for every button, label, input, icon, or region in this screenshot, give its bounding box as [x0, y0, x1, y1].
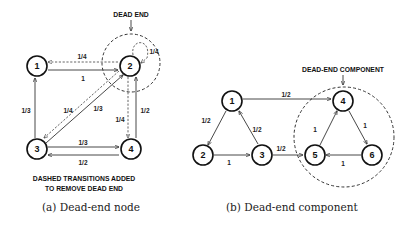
svg-text:5: 5	[312, 150, 317, 160]
weight-b-1-2: 1/2	[201, 117, 210, 124]
node-b-6: 6	[362, 145, 382, 165]
weight-b-2-3: 1	[227, 159, 231, 166]
figure: DEAD END 1/4 1 1/4 1/3 1/4 1/3 1/4 1/2 1…	[0, 0, 409, 227]
node-a-1: 1	[27, 56, 47, 76]
node-b-1: 1	[222, 91, 242, 111]
svg-text:1: 1	[34, 61, 39, 71]
svg-text:3: 3	[34, 144, 39, 154]
edge-b-1-2	[208, 111, 226, 145]
node-b-5: 5	[305, 145, 325, 165]
node-b-2: 2	[193, 145, 213, 165]
weight-a-3-1: 1/3	[21, 107, 30, 114]
edge-a-3-2	[46, 75, 123, 143]
svg-text:4: 4	[128, 144, 133, 154]
dashed-transitions-note-line2: TO REMOVE DEAD END	[45, 185, 123, 192]
dead-end-label: DEAD END	[113, 11, 149, 18]
weight-b-5-4: 1	[313, 126, 317, 133]
weight-a-3-4: 1/3	[78, 139, 87, 146]
edge-b-5-4	[320, 111, 337, 145]
weight-a-4-3: 1/2	[78, 159, 87, 166]
weight-b-4-6: 1	[363, 122, 367, 129]
dead-end-component-label: DEAD-END COMPONENT	[302, 66, 385, 73]
weight-b-1-4: 1/2	[281, 91, 290, 98]
weight-b-3-1: 1/2	[252, 126, 261, 133]
weight-a-1-2: 1	[81, 75, 85, 82]
panel-b: DEAD-END COMPONENT 1/2 1/2 1/2 1 1/2 1 1…	[193, 66, 394, 213]
node-b-4: 4	[333, 91, 353, 111]
node-b-3: 3	[252, 145, 272, 165]
node-a-4: 4	[121, 139, 141, 159]
svg-text:1: 1	[229, 96, 234, 106]
caption-b: (b) Dead-end component	[226, 201, 358, 213]
svg-text:4: 4	[340, 96, 345, 106]
weight-a-3-2: 1/3	[93, 105, 102, 112]
svg-text:3: 3	[259, 150, 264, 160]
weight-a-4-2: 1/2	[140, 107, 149, 114]
weight-a-2-2: 1/4	[149, 48, 158, 55]
dashed-transitions-note-line1: DASHED TRANSITIONS ADDED	[33, 175, 136, 182]
weight-a-2-1: 1/4	[77, 53, 86, 60]
svg-text:2: 2	[127, 61, 132, 71]
weight-b-3-5: 1/2	[276, 145, 285, 152]
node-a-3: 3	[27, 139, 47, 159]
weight-a-2-3: 1/4	[63, 107, 72, 114]
weight-b-6-5: 1	[341, 160, 345, 167]
node-a-2: 2	[120, 56, 140, 76]
weight-a-2-4: 1/4	[115, 116, 124, 123]
panel-a: DEAD END 1/4 1 1/4 1/3 1/4 1/3 1/4 1/2 1…	[21, 11, 160, 213]
svg-text:2: 2	[200, 150, 205, 160]
svg-text:6: 6	[369, 150, 374, 160]
caption-a: (a) Dead-end node	[42, 201, 140, 213]
